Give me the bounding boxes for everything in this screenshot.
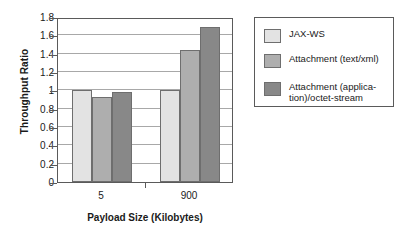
y-tick-mark [50, 91, 57, 92]
bar [200, 27, 220, 182]
x-tick-label: 5 [71, 190, 131, 201]
bar [72, 90, 92, 182]
legend-item: Attachment (applica- tion)/octet-stream [264, 81, 376, 103]
legend-swatch [264, 82, 281, 96]
y-tick-mark [50, 73, 57, 74]
y-tick-mark [50, 183, 57, 184]
legend-label: Attachment (text/xml) [289, 53, 379, 64]
legend-label: JAX-WS [289, 28, 325, 39]
bar [180, 50, 200, 182]
plot-inner [58, 19, 232, 182]
x-tick-mark [145, 183, 146, 188]
y-tick-mark [50, 55, 57, 56]
y-tick-label: 1 [14, 86, 54, 96]
y-tick-mark [50, 110, 57, 111]
y-tick-mark [50, 18, 57, 19]
y-tick-label: 0.4 [14, 141, 54, 151]
y-tick-label: 1.4 [14, 50, 54, 60]
bar [112, 92, 132, 182]
y-tick-label: 0 [14, 178, 54, 188]
y-tick-label: 0.6 [14, 123, 54, 133]
legend-item: JAX-WS [264, 28, 325, 43]
x-axis-title: Payload Size (Kilobytes) [57, 212, 233, 223]
y-tick-label: 0.2 [14, 160, 54, 170]
y-tick-label: 1.2 [14, 68, 54, 78]
y-tick-label: 1.6 [14, 31, 54, 41]
bar-chart-figure: Throughput Ratio 00.20.40.60.811.21.41.6… [0, 0, 407, 238]
legend-label: Attachment (applica- tion)/octet-stream [289, 81, 376, 103]
y-tick-mark [50, 128, 57, 129]
y-tick-label: 1.8 [14, 13, 54, 23]
bar [92, 97, 112, 182]
plot-area [57, 18, 233, 183]
chart-legend: JAX-WSAttachment (text/xml)Attachment (a… [254, 17, 394, 107]
y-tick-label: 0.8 [14, 105, 54, 115]
x-tick-label: 900 [159, 190, 219, 201]
y-tick-mark [50, 36, 57, 37]
legend-swatch [264, 29, 281, 43]
legend-item: Attachment (text/xml) [264, 53, 379, 68]
bar [160, 90, 180, 182]
y-tick-mark [50, 146, 57, 147]
y-tick-mark [50, 165, 57, 166]
legend-swatch [264, 54, 281, 68]
